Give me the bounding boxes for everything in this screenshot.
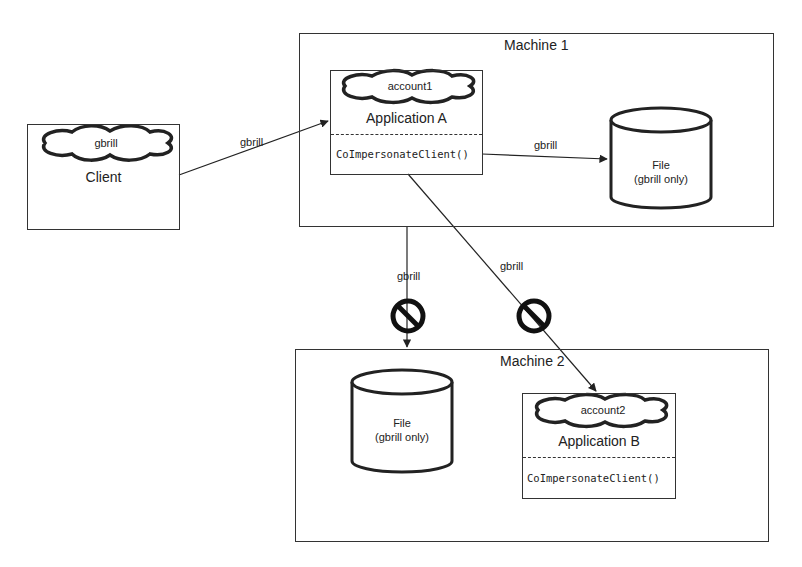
application-b-method: CoImpersonateClient() xyxy=(527,472,660,484)
no-entry-icon xyxy=(519,301,549,331)
application-a-identity: account1 xyxy=(370,80,450,92)
machine1-label: Machine 1 xyxy=(504,37,569,53)
file-machine1-subtitle: (gbrill only) xyxy=(611,172,711,186)
application-b-label: Application B xyxy=(522,433,676,449)
application-a-method: CoImpersonateClient() xyxy=(336,148,469,160)
edge-label-client-to-app-a: gbrill xyxy=(240,136,263,148)
no-entry-icon xyxy=(393,301,423,331)
file-machine2-title: File xyxy=(352,416,452,430)
machine2-label: Machine 2 xyxy=(500,353,565,369)
client-label: Client xyxy=(27,169,180,185)
edge-label-to-file2: gbrill xyxy=(397,270,420,282)
file-machine1-title: File xyxy=(611,158,711,172)
application-b-identity: account2 xyxy=(563,404,643,416)
edge-label-app-a-to-file1: gbrill xyxy=(534,139,557,151)
client-identity: gbrill xyxy=(71,137,141,149)
application-a-label: Application A xyxy=(330,110,483,126)
edge-label-to-app-b: gbrill xyxy=(500,260,523,272)
file-machine2-subtitle: (gbrill only) xyxy=(352,430,452,444)
